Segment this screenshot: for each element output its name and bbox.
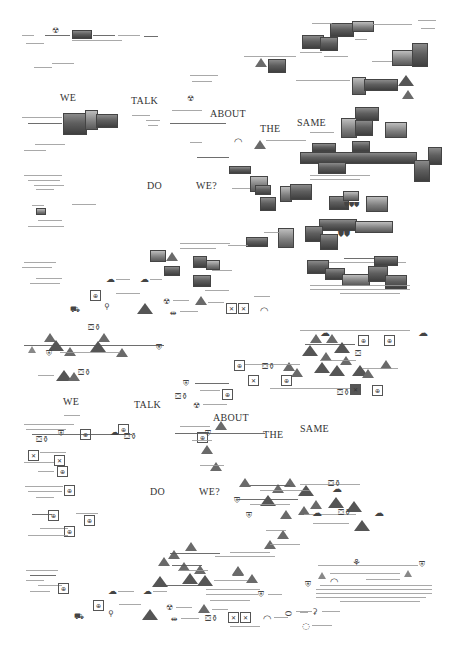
text-line — [190, 75, 218, 76]
triangle-mountain-icon — [182, 573, 198, 584]
text-line — [266, 140, 306, 141]
text-line — [38, 471, 54, 472]
text-line — [24, 150, 46, 151]
radiation-trefoil-icon: ☢ — [166, 604, 173, 612]
text-line — [176, 607, 192, 608]
text-line — [34, 67, 52, 68]
cloud-sketch-icon: ☁ — [106, 275, 115, 284]
text-line — [238, 499, 298, 500]
triangle-mountain-icon — [166, 252, 178, 261]
headline-do-2: DO — [150, 486, 165, 497]
text-line — [210, 600, 250, 601]
bottle-icon: ⛋ — [355, 350, 361, 358]
photo — [355, 221, 393, 233]
headline-we: WE — [60, 92, 76, 103]
photo — [374, 256, 398, 266]
text-line — [197, 157, 229, 158]
text-line — [40, 452, 66, 453]
map-box-icon: ✕ — [226, 303, 237, 314]
tree-icon: ⚲ — [108, 610, 114, 618]
photo — [412, 43, 428, 67]
text-line — [34, 185, 64, 186]
triangle-mountain-icon — [215, 421, 227, 430]
text-line — [254, 296, 270, 297]
text-line — [25, 486, 63, 487]
photo — [312, 143, 336, 152]
map-box-icon: ⊕ — [80, 429, 91, 440]
text-line — [206, 589, 260, 590]
photo — [36, 208, 46, 215]
photo — [246, 237, 268, 247]
triangle-mountain-icon — [404, 570, 412, 577]
text-line — [30, 283, 60, 284]
text-line — [244, 56, 296, 57]
map-box-icon: ⊕ — [358, 335, 369, 346]
text-line — [36, 278, 62, 279]
triangle-mountain-icon — [137, 303, 153, 314]
triangle-mountain-icon — [195, 296, 207, 305]
figure-sketch-icon: ⚳ — [312, 608, 318, 616]
photo — [364, 79, 398, 91]
bottle-icon: ⛋⚱ — [262, 363, 275, 371]
headline-we-question-2: WE? — [199, 486, 220, 497]
photo — [385, 275, 407, 289]
map-box-icon: ✕ — [350, 384, 361, 395]
photo — [352, 21, 374, 32]
dome-sketch-icon: ◠ — [330, 577, 339, 587]
cloud-sketch-icon: ☁ — [418, 328, 428, 338]
photo — [260, 197, 276, 211]
text-line — [195, 383, 229, 384]
cloud-sketch-icon: ☁ — [143, 587, 152, 596]
text-line — [316, 593, 432, 594]
text-line — [26, 43, 44, 44]
photo — [318, 162, 346, 174]
map-box-icon: ⊕ — [48, 510, 59, 521]
text-line — [153, 591, 167, 592]
figure-sketch-icon: ⛟ — [70, 306, 80, 314]
text-line — [76, 513, 98, 514]
text-line — [52, 63, 74, 64]
figure-sketch-icon: ⛨ — [305, 581, 311, 589]
text-line — [181, 618, 199, 619]
map-box-icon: ⊕ — [118, 424, 129, 435]
triangle-mountain-icon — [28, 346, 36, 353]
photo — [392, 50, 414, 66]
figure-sketch-icon: ⛨ — [258, 591, 264, 599]
figure-sketch-icon: ⛟ — [74, 613, 84, 621]
text-line — [35, 144, 65, 145]
photo — [255, 185, 271, 195]
text-line — [45, 35, 70, 36]
text-line — [116, 293, 140, 294]
map-box-icon: ⊕ — [57, 466, 68, 477]
photo — [428, 147, 442, 165]
cloud-sketch-icon: ☁ — [312, 508, 322, 518]
butterfly-sketch-icon: ⚘ — [352, 558, 361, 568]
text-line — [330, 573, 400, 574]
text-line — [146, 120, 160, 121]
headline-about: ABOUT — [210, 108, 246, 119]
text-line — [362, 368, 398, 369]
text-line — [148, 125, 158, 126]
bottle-icon: ⛋⚱ — [88, 324, 101, 332]
shield-icon: ⛊⛊ — [338, 231, 350, 239]
photo — [229, 166, 251, 174]
map-box-icon: ⊕ — [234, 360, 245, 371]
photo — [355, 107, 379, 121]
text-line — [180, 311, 198, 312]
triangle-mountain-icon — [210, 462, 222, 471]
text-line — [366, 579, 400, 580]
shield-icon: ⛊⛊⛊ — [344, 202, 359, 209]
text-line — [26, 570, 58, 571]
tree-icon: ⚲ — [104, 303, 110, 311]
text-line — [118, 591, 134, 592]
text-line — [324, 56, 348, 57]
triangle-mountain-icon — [168, 550, 180, 559]
text-line — [372, 24, 412, 25]
text-line — [180, 248, 216, 249]
photo — [72, 30, 92, 39]
map-box-icon: ⊕ — [281, 375, 292, 386]
text-line — [316, 589, 432, 590]
text-line — [372, 61, 392, 62]
poster-canvas: WE TALK ABOUT THE SAME DO WE? ☢ ☢ ◠ — [0, 0, 457, 645]
headline-the-2: THE — [263, 429, 283, 440]
